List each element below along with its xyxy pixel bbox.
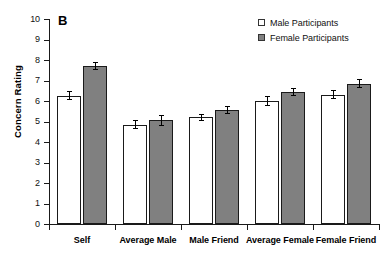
y-tick-label-text: 0 [22,220,40,229]
filled-square-swatch [258,34,265,41]
y-tick-label: 10 [22,15,40,24]
error-bar-cap-bottom [265,105,270,106]
error-bar-cap-top [357,79,362,80]
y-tick-label-text: 10 [22,15,40,24]
error-bar [291,88,296,96]
open-square-swatch [258,19,265,26]
error-bar [159,115,164,125]
error-bar [225,106,230,114]
bar-female [281,92,305,224]
y-tick-label-text: 1 [22,199,40,208]
error-bar-cap-top [331,90,336,91]
error-bar-cap-bottom [159,125,164,126]
error-bar-cap-bottom [93,69,98,70]
error-bar [331,90,336,99]
error-bar-cap-top [291,88,296,89]
error-bar-cap-bottom [357,87,362,88]
error-bar-cap-top [225,106,230,107]
error-bar [357,79,362,87]
y-tick-label: 1 [22,199,40,208]
x-tick-mark [49,225,50,230]
error-bar-cap-top [67,91,72,92]
y-tick-label: 4 [22,138,40,147]
error-bar-cap-bottom [67,99,72,100]
error-bar [199,114,204,121]
x-category-label: Male Friend [189,235,238,245]
error-bar-cap-bottom [133,128,138,129]
error-bar-cap-bottom [331,98,336,99]
error-bar-cap-top [159,115,164,116]
y-tick-label: 3 [22,158,40,167]
x-tick-mark [181,225,182,230]
y-tick-label-text: 7 [22,76,40,85]
x-tick-mark [379,225,380,230]
y-tick-label-text: 5 [22,117,40,126]
legend-item: Male Participants [258,16,349,29]
x-tick-mark [115,225,116,230]
bar-female [149,120,173,224]
bar-male [189,117,213,224]
bar-male [321,95,345,224]
y-tick-label: 5 [22,117,40,126]
error-bar [67,91,72,100]
bar-male [255,101,279,224]
y-tick-label: 7 [22,76,40,85]
error-bar-cap-top [93,62,98,63]
x-tick-mark [313,225,314,230]
error-bar-cap-top [133,120,138,121]
error-bar-cap-bottom [225,113,230,114]
y-tick-label: 6 [22,97,40,106]
x-axis-line [49,224,380,225]
y-tick-label: 9 [22,35,40,44]
bar-female [215,110,239,224]
plot-area [49,19,379,224]
legend-item-label: Female Participants [270,33,349,43]
x-category-label: Average Male [119,235,176,245]
x-category-label: Self [74,235,90,245]
bar-female [347,84,371,224]
y-tick-label-text: 9 [22,35,40,44]
bar-female [83,66,107,224]
error-bar-cap-bottom [291,95,296,96]
error-bar [265,96,270,106]
legend: Male ParticipantsFemale Participants [258,16,349,46]
y-tick-label: 2 [22,179,40,188]
y-tick-label-text: 6 [22,97,40,106]
error-bar-cap-top [265,96,270,97]
error-bar [93,62,98,70]
concern-rating-bar-chart: B 109876543210 Concern Rating SelfAverag… [0,0,384,262]
y-axis-title: Concern Rating [12,47,23,157]
y-tick-label-text: 2 [22,179,40,188]
error-bar [133,120,138,129]
x-category-label: Average Female [246,235,314,245]
bar-male [123,125,147,224]
bar-male [57,96,81,224]
legend-item: Female Participants [258,31,349,44]
error-bar-cap-top [199,114,204,115]
y-tick-label-text: 4 [22,138,40,147]
legend-item-label: Male Participants [270,18,338,28]
y-tick-label: 8 [22,56,40,65]
error-bar-cap-bottom [199,120,204,121]
y-tick-label-text: 3 [22,158,40,167]
y-tick-label-text: 8 [22,56,40,65]
y-tick-label: 0 [22,220,40,229]
x-tick-mark [247,225,248,230]
x-category-label: Female Friend [316,235,376,245]
